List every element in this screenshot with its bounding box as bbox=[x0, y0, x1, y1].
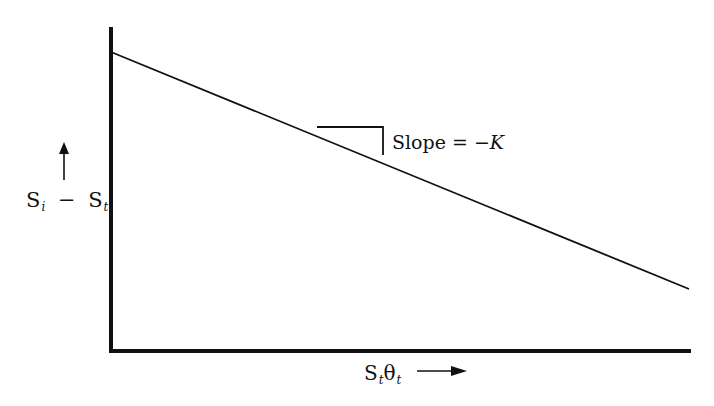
x-label-sub-t2: t bbox=[397, 373, 402, 387]
y-label-sub-i: i bbox=[41, 200, 45, 214]
y-label-sub-t: t bbox=[104, 200, 109, 214]
up-arrow-icon bbox=[59, 142, 69, 180]
x-label-s: S bbox=[364, 361, 378, 385]
x-axis-label: Stθt bbox=[364, 363, 401, 386]
x-label-theta: θ bbox=[384, 361, 396, 385]
y-label-minus: − bbox=[58, 188, 76, 212]
slope-value: −K bbox=[474, 131, 504, 153]
slope-text: Slope = bbox=[392, 131, 474, 153]
y-label-s1: S bbox=[26, 188, 40, 212]
data-line bbox=[111, 52, 689, 289]
right-arrow-icon bbox=[417, 366, 467, 376]
y-axis-label: Si − St bbox=[26, 190, 108, 213]
slope-annotation: Slope = −K bbox=[392, 133, 504, 152]
y-label-s2: S bbox=[88, 188, 102, 212]
